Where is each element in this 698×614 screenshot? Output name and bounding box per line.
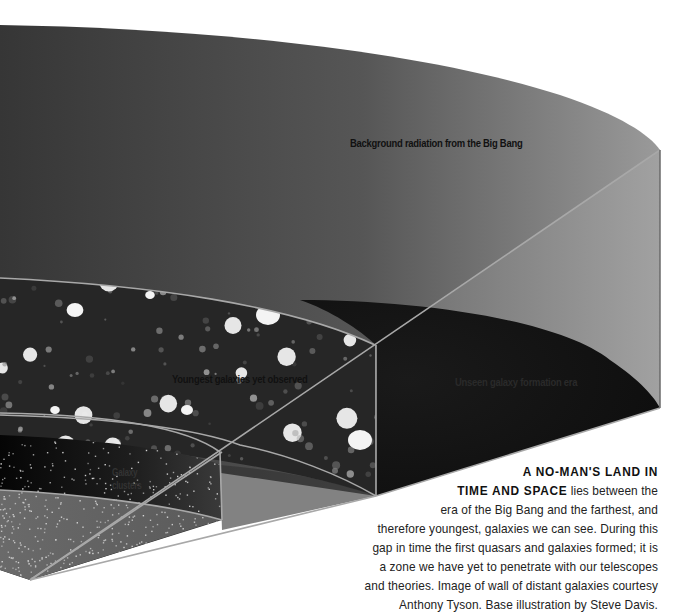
cluster-dot <box>70 578 71 579</box>
galaxy-blob <box>31 286 36 291</box>
cluster-dot <box>133 516 134 517</box>
galaxy-blob <box>70 374 73 377</box>
cluster-dot <box>202 517 203 518</box>
cluster-dot <box>31 511 32 512</box>
cluster-dot <box>9 495 10 496</box>
cluster-dot <box>124 559 125 560</box>
cluster-dot <box>208 570 209 571</box>
cluster-dot <box>141 541 142 542</box>
cluster-dot <box>13 528 14 529</box>
cluster-dot <box>1 531 2 532</box>
cluster-dot <box>37 516 38 517</box>
cluster-dot <box>99 574 100 575</box>
cluster-dot <box>169 557 170 558</box>
cluster-dot <box>44 506 45 507</box>
cluster-dot <box>37 541 38 542</box>
cluster-dot <box>58 508 59 509</box>
cluster-dot <box>163 577 164 578</box>
cluster-dot <box>186 536 187 537</box>
cluster-dot <box>14 542 15 543</box>
cluster-dot <box>50 552 51 553</box>
cluster-dot <box>99 478 100 479</box>
cluster-dot <box>183 528 184 529</box>
cluster-dot <box>103 549 104 550</box>
cluster-dot <box>92 478 93 479</box>
cluster-dot <box>48 555 49 556</box>
cluster-dot <box>104 507 105 508</box>
cluster-dot <box>76 556 77 557</box>
cluster-dot <box>120 574 121 575</box>
caption-line: era of the Big Bang and the farthest, an… <box>271 500 658 519</box>
cluster-dot <box>13 540 14 541</box>
cluster-dot <box>176 454 177 455</box>
cluster-dot <box>90 548 91 549</box>
cluster-dot <box>12 526 13 527</box>
cluster-dot <box>30 445 31 446</box>
cluster-dot <box>2 479 3 480</box>
cluster-dot <box>127 535 128 536</box>
cluster-dot <box>152 526 153 527</box>
galaxy-blob <box>305 442 313 450</box>
cluster-dot <box>140 574 141 575</box>
cluster-dot <box>18 562 19 563</box>
cluster-dot <box>180 561 181 562</box>
cluster-dot <box>4 498 5 499</box>
cluster-dot <box>3 509 4 510</box>
cluster-dot <box>198 511 199 512</box>
cluster-dot <box>92 550 93 551</box>
cluster-dot <box>174 573 175 574</box>
cluster-dot <box>12 558 13 559</box>
galaxy-blob <box>243 361 247 365</box>
galaxy-blob <box>302 421 307 426</box>
cluster-dot <box>4 478 5 479</box>
caption-line: gap in time the first quasars and galaxi… <box>271 538 658 557</box>
cluster-dot <box>35 536 36 537</box>
cluster-dot <box>22 471 23 472</box>
cluster-dot <box>176 576 177 577</box>
cluster-dot <box>55 497 56 498</box>
cluster-dot <box>47 452 48 453</box>
cluster-dot <box>1 463 2 464</box>
cluster-dot <box>183 519 184 520</box>
cluster-dot <box>105 539 106 540</box>
cluster-dot <box>129 499 130 500</box>
cluster-dot <box>61 517 62 518</box>
cluster-dot <box>85 475 86 476</box>
cluster-dot <box>92 553 93 554</box>
cluster-dot <box>73 541 74 542</box>
cluster-dot <box>200 562 201 563</box>
cluster-dot <box>25 509 26 510</box>
cluster-dot <box>96 521 97 522</box>
cluster-dot <box>33 550 34 551</box>
cluster-dot <box>9 539 10 540</box>
cluster-dot <box>4 536 5 537</box>
cluster-dot <box>29 510 30 511</box>
cluster-dot <box>125 524 126 525</box>
cluster-dot <box>133 530 134 531</box>
cluster-dot <box>105 522 106 523</box>
cluster-dot <box>54 441 55 442</box>
cluster-dot <box>37 528 38 529</box>
label-background-radiation: Background radiation from the Big Bang <box>350 137 522 149</box>
cluster-dot <box>73 479 74 480</box>
cluster-dot <box>198 556 199 557</box>
cluster-dot <box>93 573 94 574</box>
cluster-dot <box>34 561 35 562</box>
cluster-dot <box>169 570 170 571</box>
cluster-dot <box>146 450 147 451</box>
cluster-dot <box>105 464 106 465</box>
cluster-dot <box>22 444 23 445</box>
cluster-dot <box>19 571 20 572</box>
caption-line-2-rest: lies between the <box>567 483 658 498</box>
cluster-dot <box>100 522 101 523</box>
cluster-dot <box>187 537 188 538</box>
cluster-dot <box>176 539 177 540</box>
caption-line: Anthony Tyson. Base illustration by Stev… <box>271 595 658 614</box>
cluster-dot <box>32 559 33 560</box>
cluster-dot <box>89 552 90 553</box>
cluster-dot <box>184 564 185 565</box>
cluster-dot <box>18 567 19 568</box>
cluster-dot <box>30 464 31 465</box>
cluster-dot <box>157 524 158 525</box>
cluster-dot <box>16 478 17 479</box>
